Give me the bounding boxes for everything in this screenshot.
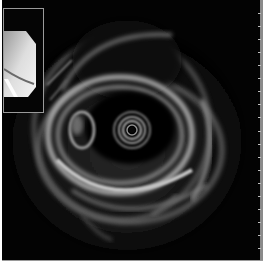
endoscopic-view	[4, 9, 44, 113]
scale-tick	[258, 222, 261, 223]
scale-tick	[258, 170, 261, 171]
scale-tick	[258, 157, 261, 158]
scale-tick	[258, 117, 261, 118]
scale-tick	[258, 78, 261, 79]
scale-tick	[258, 26, 261, 27]
scale-tick	[258, 196, 261, 197]
scale-tick	[258, 52, 261, 53]
scale-tick	[258, 91, 261, 92]
scale-tick	[258, 183, 261, 184]
scale-tick	[258, 13, 261, 14]
endoscopic-inset	[3, 8, 44, 113]
scale-tick	[258, 131, 261, 132]
scale-tick	[258, 144, 261, 145]
scale-tick	[258, 209, 261, 210]
scale-tick	[258, 235, 261, 236]
scale-tick	[258, 65, 261, 66]
scale-tick	[258, 39, 261, 40]
image-bottom-border	[2, 260, 263, 261]
scale-tick	[258, 104, 261, 105]
scale-tick	[258, 248, 261, 249]
